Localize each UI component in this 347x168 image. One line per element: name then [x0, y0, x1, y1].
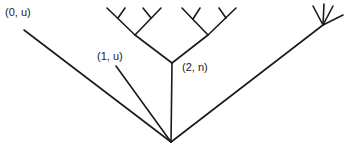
tree-diagram [0, 0, 347, 168]
label-node-0-u: (0, u) [5, 6, 31, 18]
edge-sr-left-arm [182, 8, 208, 35]
label-node-1-u: (1, u) [97, 50, 123, 62]
edge-branch-1-u [116, 66, 171, 142]
label-node-2-n: (2, n) [182, 61, 208, 73]
edge-branch-right-long [171, 25, 323, 142]
edge-sl-right-arm [135, 8, 161, 35]
edge-fan-spike-1 [313, 6, 323, 25]
edge-branch-0-u [24, 30, 171, 142]
edge-branch-2-n-stem [171, 63, 172, 142]
edge-sl-left-twig [118, 8, 125, 18]
edge-subtree-left-trunk [135, 35, 172, 63]
edge-sr-left-twig [193, 8, 200, 19]
edge-subtree-right-trunk [172, 35, 208, 63]
edge-sl-right-twig [143, 8, 151, 18]
edge-sl-left-arm [107, 8, 135, 35]
edge-sr-right-twig [219, 8, 226, 18]
